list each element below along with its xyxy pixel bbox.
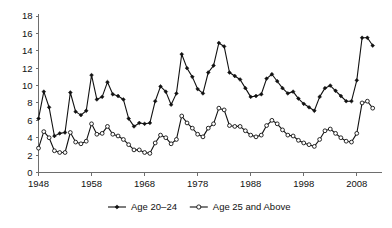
data-point-marker (286, 133, 290, 137)
data-point-marker (334, 131, 338, 135)
data-point-marker (68, 131, 72, 135)
x-axis-tick-label: 1948 (28, 178, 49, 189)
y-axis-tick-label: 12 (22, 63, 33, 74)
data-point-marker (365, 99, 369, 103)
data-point-marker (233, 125, 237, 129)
data-point-marker (201, 135, 205, 139)
data-point-marker (175, 138, 179, 142)
legend-label: Age 20–24 (131, 201, 177, 212)
data-point-marker (371, 106, 375, 110)
data-point-marker (190, 126, 194, 130)
data-point-marker (185, 121, 189, 125)
data-point-marker (137, 148, 141, 152)
data-point-marker (143, 151, 147, 155)
y-axis-tick-label: 0 (27, 167, 32, 178)
data-point-marker (254, 135, 258, 139)
data-point-marker (164, 136, 168, 140)
y-axis-tick-label: 8 (27, 97, 32, 108)
data-point-marker (297, 138, 301, 142)
x-axis-tick-label: 2008 (346, 178, 367, 189)
data-point-marker (328, 127, 332, 131)
data-point-marker (318, 138, 322, 142)
data-point-marker (37, 146, 41, 150)
data-point-marker (153, 141, 157, 145)
data-point-marker (238, 125, 242, 129)
data-point-marker (90, 122, 94, 126)
data-point-marker (265, 124, 269, 128)
data-point-marker (95, 132, 99, 136)
data-point-marker (243, 129, 247, 133)
y-axis-tick-label: 16 (22, 28, 33, 39)
data-point-marker (53, 149, 57, 153)
data-point-marker (222, 108, 226, 112)
data-point-marker (270, 118, 274, 122)
y-axis-tick-label: 10 (22, 80, 33, 91)
data-point-marker (228, 124, 232, 128)
data-point-marker (42, 130, 46, 134)
data-point-marker (180, 114, 184, 118)
legend-label: Age 25 and Above (213, 201, 291, 212)
data-point-marker (79, 142, 83, 146)
data-point-marker (63, 151, 67, 155)
unemployment-rate-line-chart: 024681012141618 194819581968197819881998… (0, 0, 392, 228)
data-point-marker (197, 205, 201, 209)
data-point-marker (212, 122, 216, 126)
x-axis-tick-label: 1958 (81, 178, 102, 189)
data-point-marker (355, 131, 359, 135)
x-axis-tick-label: 1968 (134, 178, 155, 189)
chart-plot-area: 024681012141618 194819581968197819881998… (0, 0, 392, 228)
x-axis-tick-label: 1998 (293, 178, 314, 189)
data-point-marker (249, 133, 253, 137)
data-point-marker (148, 151, 152, 155)
y-axis-tick-label: 6 (27, 115, 32, 126)
data-point-marker (312, 145, 316, 149)
data-point-marker (84, 139, 88, 143)
x-axis-tick-label: 1978 (187, 178, 208, 189)
data-point-marker (58, 151, 62, 155)
data-point-marker (291, 134, 295, 138)
y-axis-tick-label: 18 (22, 10, 33, 21)
data-point-marker (275, 122, 279, 126)
data-point-marker (106, 125, 110, 129)
data-point-marker (339, 136, 343, 140)
y-axis-tick-label: 4 (27, 132, 32, 143)
data-point-marker (127, 143, 131, 147)
data-point-marker (350, 140, 354, 144)
data-point-marker (259, 133, 263, 137)
data-point-marker (360, 101, 364, 105)
data-point-marker (307, 143, 311, 147)
data-point-marker (302, 141, 306, 145)
data-point-marker (74, 140, 78, 144)
data-point-marker (323, 129, 327, 133)
x-axis-tick-label: 1988 (240, 178, 261, 189)
y-axis-tick-label: 14 (22, 45, 33, 56)
data-point-marker (100, 131, 104, 135)
data-point-marker (169, 142, 173, 146)
chart-background (0, 0, 392, 228)
data-point-marker (111, 132, 115, 136)
data-point-marker (206, 126, 210, 130)
data-point-marker (344, 139, 348, 143)
data-point-marker (159, 133, 163, 137)
data-point-marker (47, 136, 51, 140)
data-point-marker (121, 138, 125, 142)
data-point-marker (281, 128, 285, 132)
data-point-marker (196, 132, 200, 136)
data-point-marker (116, 134, 120, 138)
y-axis-tick-label: 2 (27, 150, 32, 161)
data-point-marker (217, 106, 221, 110)
data-point-marker (132, 148, 136, 152)
